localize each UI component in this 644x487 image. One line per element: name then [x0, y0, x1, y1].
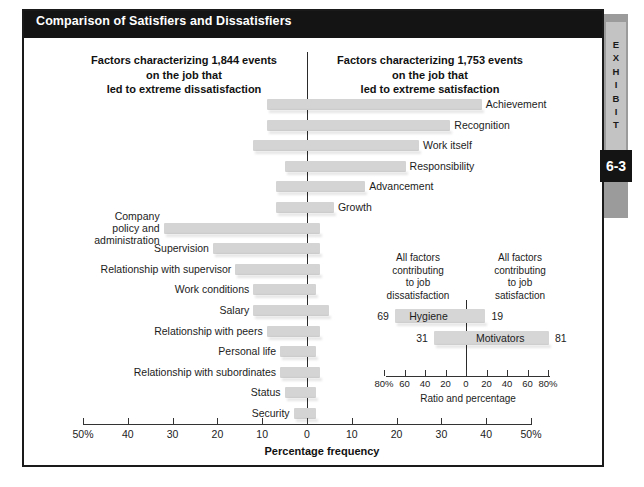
exhibit-tab-label: EXHIBIT — [603, 26, 629, 146]
column-heading-satisfaction: Factors characterizing 1,753 eventson th… — [322, 53, 538, 97]
exhibit-number: 6-3 — [606, 158, 626, 174]
exhibit-page: Comparison of Satisfiers and Dissatisfie… — [0, 0, 644, 487]
column-heading-dissatisfaction: Factors characterizing 1,844 eventson th… — [76, 53, 292, 97]
exhibit-number-badge: 6-3 — [600, 150, 632, 182]
page-title: Comparison of Satisfiers and Dissatisfie… — [36, 14, 292, 28]
